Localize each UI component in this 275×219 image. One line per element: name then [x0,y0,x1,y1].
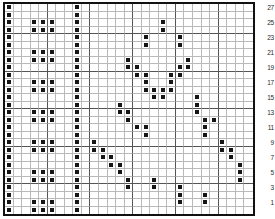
grid-cell-filled[interactable] [5,192,14,200]
grid-cell-empty[interactable] [142,147,151,155]
grid-cell-empty[interactable] [22,87,31,95]
grid-cell-empty[interactable] [184,19,193,27]
grid-cell-empty[interactable] [99,12,108,20]
grid-cell-empty[interactable] [56,124,65,132]
grid-cell-empty[interactable] [99,27,108,35]
grid-cell-empty[interactable] [22,19,31,27]
grid-cell-empty[interactable] [22,79,31,87]
grid-cell-empty[interactable] [150,4,159,12]
grid-cell-empty[interactable] [14,49,23,57]
grid-cell-empty[interactable] [133,154,142,162]
grid-cell-filled[interactable] [167,72,176,80]
grid-cell-empty[interactable] [65,34,74,42]
grid-cell-filled[interactable] [31,169,40,177]
grid-cell-empty[interactable] [236,12,245,20]
grid-cell-filled[interactable] [5,27,14,35]
grid-cell-empty[interactable] [125,12,134,20]
grid-cell-empty[interactable] [133,12,142,20]
grid-cell-empty[interactable] [202,154,211,162]
grid-cell-empty[interactable] [227,79,236,87]
grid-cell-empty[interactable] [167,177,176,185]
grid-cell-empty[interactable] [227,87,236,95]
grid-row[interactable] [5,169,253,177]
grid-cell-filled[interactable] [142,132,151,140]
grid-cell-empty[interactable] [82,117,91,125]
grid-cell-filled[interactable] [150,94,159,102]
grid-cell-empty[interactable] [193,162,202,170]
grid-cell-empty[interactable] [150,109,159,117]
grid-cell-empty[interactable] [244,87,253,95]
grid-cell-filled[interactable] [202,124,211,132]
grid-cell-empty[interactable] [176,177,185,185]
grid-cell-empty[interactable] [65,154,74,162]
grid-cell-filled[interactable] [48,207,57,215]
grid-cell-empty[interactable] [142,4,151,12]
grid-cell-empty[interactable] [236,109,245,117]
grid-cell-filled[interactable] [39,19,48,27]
grid-cell-empty[interactable] [150,139,159,147]
grid-cell-empty[interactable] [159,139,168,147]
grid-cell-empty[interactable] [167,139,176,147]
grid-cell-empty[interactable] [90,94,99,102]
grid-cell-empty[interactable] [227,57,236,65]
grid-cell-empty[interactable] [167,162,176,170]
grid-cell-filled[interactable] [125,117,134,125]
grid-cell-empty[interactable] [176,139,185,147]
grid-cell-empty[interactable] [108,19,117,27]
grid-cell-empty[interactable] [176,207,185,215]
grid-cell-empty[interactable] [56,12,65,20]
grid-cell-empty[interactable] [22,4,31,12]
grid-cell-filled[interactable] [159,19,168,27]
grid-cell-empty[interactable] [159,4,168,12]
grid-cell-empty[interactable] [202,42,211,50]
grid-cell-empty[interactable] [65,192,74,200]
grid-cell-empty[interactable] [108,94,117,102]
grid-cell-empty[interactable] [133,87,142,95]
grid-cell-empty[interactable] [236,139,245,147]
grid-cell-empty[interactable] [244,72,253,80]
grid-cell-empty[interactable] [142,12,151,20]
grid-cell-filled[interactable] [73,184,82,192]
grid-cell-empty[interactable] [90,169,99,177]
grid-cell-empty[interactable] [90,124,99,132]
grid-cell-filled[interactable] [39,117,48,125]
grid-cell-filled[interactable] [193,94,202,102]
grid-cell-filled[interactable] [99,154,108,162]
grid-cell-empty[interactable] [90,102,99,110]
grid-cell-empty[interactable] [99,199,108,207]
grid-cell-empty[interactable] [219,109,228,117]
grid-cell-filled[interactable] [73,87,82,95]
grid-cell-empty[interactable] [125,162,134,170]
grid-cell-empty[interactable] [210,94,219,102]
grid-cell-empty[interactable] [56,109,65,117]
grid-cell-filled[interactable] [167,87,176,95]
grid-cell-empty[interactable] [159,124,168,132]
grid-cell-filled[interactable] [116,102,125,110]
grid-cell-empty[interactable] [108,192,117,200]
grid-cell-empty[interactable] [56,102,65,110]
grid-cell-empty[interactable] [227,34,236,42]
grid-cell-empty[interactable] [159,64,168,72]
grid-cell-filled[interactable] [48,199,57,207]
grid-cell-empty[interactable] [159,12,168,20]
grid-cell-empty[interactable] [184,12,193,20]
grid-cell-empty[interactable] [116,132,125,140]
grid-cell-empty[interactable] [116,154,125,162]
grid-cell-empty[interactable] [244,4,253,12]
grid-cell-filled[interactable] [184,64,193,72]
grid-cell-empty[interactable] [99,19,108,27]
grid-cell-empty[interactable] [150,169,159,177]
grid-cell-filled[interactable] [125,64,134,72]
grid-cell-empty[interactable] [99,49,108,57]
grid-cell-empty[interactable] [56,117,65,125]
grid-cell-empty[interactable] [82,207,91,215]
grid-cell-empty[interactable] [125,124,134,132]
grid-row[interactable] [5,154,253,162]
grid-cell-empty[interactable] [125,139,134,147]
grid-cell-empty[interactable] [244,117,253,125]
grid-cell-empty[interactable] [22,94,31,102]
grid-cell-empty[interactable] [14,12,23,20]
grid-cell-filled[interactable] [73,4,82,12]
grid-cell-empty[interactable] [133,19,142,27]
grid-cell-empty[interactable] [90,132,99,140]
